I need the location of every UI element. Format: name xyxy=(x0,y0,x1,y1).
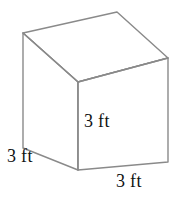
dimension-label-bottom-width: 3 ft xyxy=(116,172,142,190)
cube-figure: 3 ft 3 ft 3 ft xyxy=(0,0,179,197)
dimension-label-front-height: 3 ft xyxy=(84,112,110,130)
cube-drawing xyxy=(0,0,179,197)
dimension-label-left-depth: 3 ft xyxy=(7,147,33,165)
